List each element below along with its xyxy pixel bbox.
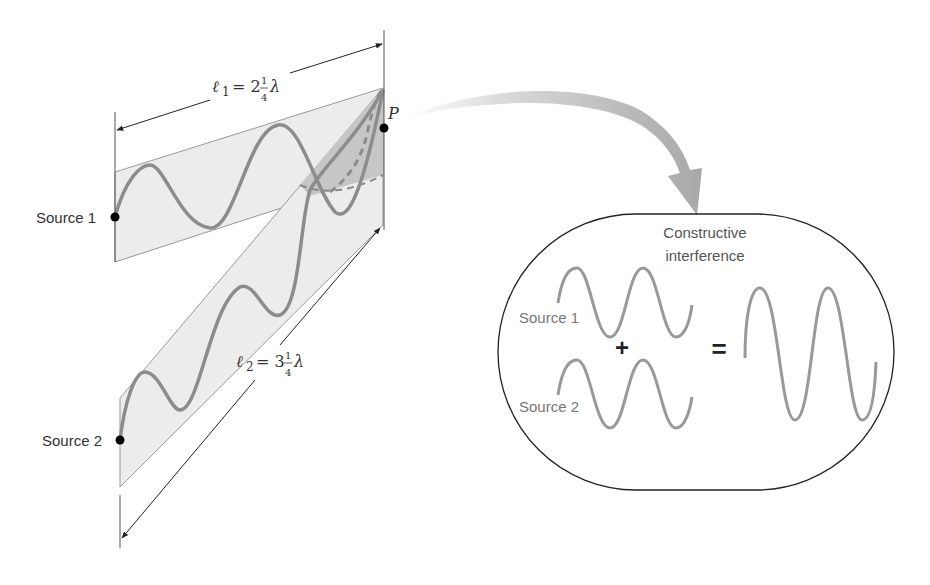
svg-text:1: 1: [261, 75, 267, 86]
point-p-label: P: [387, 104, 399, 123]
panel-wave-source1-label: Source 1: [519, 309, 579, 326]
svg-text:1: 1: [222, 85, 230, 99]
l1-dimension-arrow-right: [290, 44, 382, 73]
svg-text:4: 4: [261, 92, 267, 103]
point-p: [380, 124, 389, 133]
l1-dimension-arrow: [117, 100, 210, 130]
svg-text:ℓ: ℓ: [212, 77, 219, 96]
source1-label: Source 1: [36, 209, 96, 226]
svg-text:= 3: = 3: [256, 352, 285, 371]
panel-title-line1: Constructive: [663, 224, 746, 241]
source2-label: Source 2: [42, 432, 102, 449]
svg-text:1: 1: [285, 350, 291, 361]
panel-wave-source2-label: Source 2: [519, 398, 579, 415]
svg-text:= 2: = 2: [232, 77, 261, 96]
panel-title-line2: interference: [665, 247, 744, 264]
curved-arrow-icon: [405, 91, 702, 215]
l1-label: ℓ 1 = 2 1 4 λ: [212, 75, 280, 103]
interference-diagram: ℓ 1 = 2 1 4 λ ℓ 2 = 3 1 4 λ Source 1 Sou…: [0, 0, 930, 585]
svg-text:2: 2: [246, 360, 254, 374]
svg-text:λ: λ: [269, 77, 280, 96]
source1-point: [111, 213, 120, 222]
plus-sign: +: [615, 334, 629, 361]
svg-text:ℓ: ℓ: [236, 352, 243, 371]
svg-text:λ: λ: [293, 352, 304, 371]
source2-point: [116, 436, 125, 445]
equals-sign: =: [711, 334, 726, 364]
svg-text:4: 4: [285, 367, 291, 378]
